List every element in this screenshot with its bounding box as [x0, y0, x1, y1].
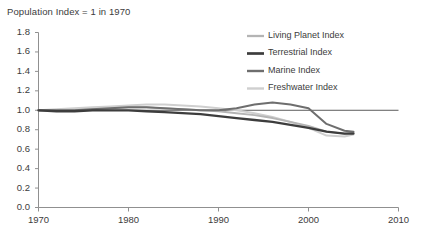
y-axis-tick-label: 1.0	[4, 104, 30, 115]
x-axis-tick-label: 1980	[109, 214, 149, 225]
series-line-terrestrial-index	[39, 110, 354, 133]
x-axis-tick-label: 2000	[289, 214, 329, 225]
plot-area	[0, 0, 426, 243]
legend-label-living-planet-index: Living Planet Index	[268, 30, 344, 40]
y-axis-tick-label: 1.4	[4, 65, 30, 76]
x-axis-tick-label: 1990	[199, 214, 239, 225]
legend-label-terrestrial-index: Terrestrial Index	[268, 47, 332, 57]
y-axis-tick-label: 0.2	[4, 182, 30, 193]
y-axis-tick-label: 1.2	[4, 84, 30, 95]
x-axis-tick-label: 1970	[19, 214, 59, 225]
legend-label-marine-index: Marine Index	[268, 65, 320, 75]
legend-label-freshwater-index: Freshwater Index	[268, 82, 338, 92]
y-axis-tick-label: 1.8	[4, 26, 30, 37]
y-axis-tick-label: 0.8	[4, 123, 30, 134]
y-axis-tick-label: 0.6	[4, 143, 30, 154]
y-axis-tick-label: 0.4	[4, 162, 30, 173]
x-axis-tick-label: 2010	[379, 214, 419, 225]
y-axis-tick-label: 0.0	[4, 201, 30, 212]
y-axis-tick-label: 1.6	[4, 45, 30, 56]
chart-container: Population Index = 1 in 1970 0.00.20.40.…	[0, 0, 426, 243]
